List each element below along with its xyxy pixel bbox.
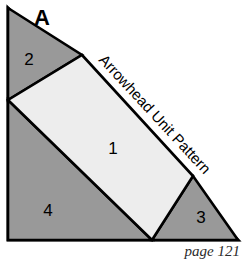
region-1-label: 1 <box>108 139 117 158</box>
figure-canvas: 1 2 3 4 A Arrowhead Unit Pattern page 12… <box>0 0 246 259</box>
region-2-label: 2 <box>24 50 33 69</box>
region-4-label: 4 <box>43 201 52 220</box>
region-3-label: 3 <box>196 208 205 227</box>
page-note-label: page 121 <box>184 243 240 259</box>
arrowhead-unit-pattern-figure: 1 2 3 4 A Arrowhead Unit Pattern page 12… <box>0 0 246 259</box>
panel-letter-label: A <box>34 5 50 30</box>
